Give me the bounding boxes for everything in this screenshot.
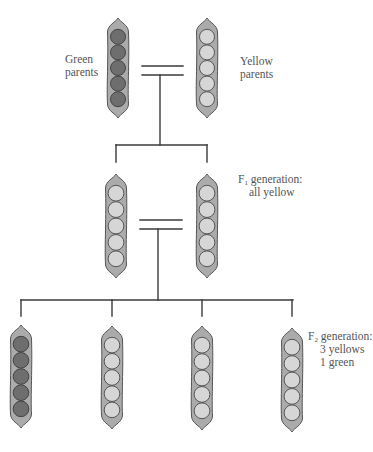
yellow-pea bbox=[194, 403, 210, 419]
yellow-pea bbox=[108, 235, 124, 251]
yellow-pea bbox=[104, 354, 120, 370]
yellow-pea bbox=[108, 251, 124, 267]
green-pea bbox=[13, 336, 29, 352]
green-pea bbox=[111, 92, 126, 107]
yellow-pea bbox=[199, 185, 215, 201]
yellow-pea bbox=[284, 372, 300, 388]
yellow-pea bbox=[284, 405, 300, 421]
pea-pod-f2-3 bbox=[191, 326, 213, 430]
pea-pod-f1-right bbox=[196, 174, 218, 278]
green-pea bbox=[13, 369, 29, 385]
green-pea bbox=[13, 385, 29, 401]
pea-pod-f2-2 bbox=[101, 326, 123, 429]
pea-pod-f2-1 bbox=[10, 325, 32, 428]
green-pea bbox=[111, 29, 126, 44]
green-pea bbox=[111, 76, 126, 91]
yellow-pea bbox=[194, 387, 210, 403]
yellow-pea bbox=[104, 337, 120, 353]
yellow-pea bbox=[199, 251, 215, 267]
yellow-pea bbox=[199, 218, 215, 234]
yellow-pea bbox=[104, 386, 120, 402]
yellow-pea bbox=[194, 354, 210, 370]
yellow-pea bbox=[200, 92, 215, 107]
yellow-pea bbox=[284, 389, 300, 405]
green-pea bbox=[13, 401, 29, 417]
label-f2-generation: F2 generation: 3 yellows 1 green bbox=[308, 330, 373, 369]
pea-pod-parent-yellow bbox=[196, 18, 218, 118]
yellow-pea bbox=[200, 61, 215, 76]
label-yellow-parents: Yellow parents bbox=[240, 55, 273, 81]
label-f1-generation: F1 generation: all yellow bbox=[238, 173, 303, 199]
yellow-pea bbox=[199, 235, 215, 251]
yellow-pea bbox=[200, 29, 215, 44]
green-pea bbox=[111, 45, 126, 60]
pea-pod-f1-left bbox=[105, 174, 127, 278]
yellow-pea bbox=[108, 185, 124, 201]
yellow-pea bbox=[284, 339, 300, 355]
green-pea bbox=[111, 61, 126, 76]
yellow-pea bbox=[194, 370, 210, 386]
yellow-pea bbox=[104, 370, 120, 386]
yellow-pea bbox=[200, 76, 215, 91]
label-green-parents: Green parents bbox=[65, 53, 98, 79]
yellow-pea bbox=[194, 337, 210, 353]
yellow-pea bbox=[199, 202, 215, 218]
pea-pod-parent-green bbox=[107, 18, 129, 118]
yellow-pea bbox=[284, 356, 300, 372]
pea-pod-f2-4 bbox=[281, 328, 303, 432]
yellow-pea bbox=[108, 202, 124, 218]
green-pea bbox=[13, 353, 29, 369]
yellow-pea bbox=[108, 218, 124, 234]
yellow-pea bbox=[200, 45, 215, 60]
yellow-pea bbox=[104, 402, 120, 418]
